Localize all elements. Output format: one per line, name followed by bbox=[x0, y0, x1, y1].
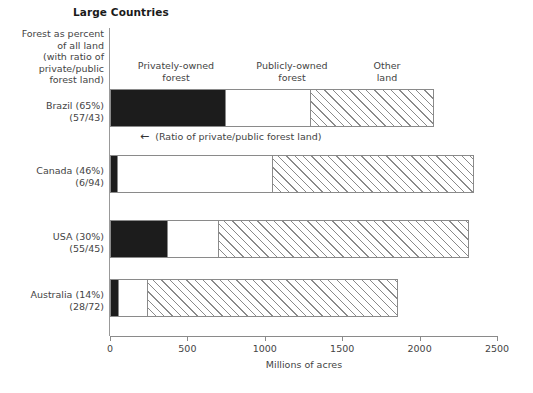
x-axis-tick bbox=[342, 336, 343, 341]
legend-label-public-line1: Publicly-owned bbox=[233, 60, 351, 72]
left-caption-line-5: forest land) bbox=[0, 74, 104, 86]
bar-segment-public bbox=[168, 221, 219, 257]
row-label-australia-name: Australia (14%) bbox=[0, 289, 104, 301]
legend-label-private-line2: forest bbox=[117, 72, 235, 84]
legend-label-private: Privately-owned forest bbox=[117, 60, 235, 83]
row-label-usa-ratio: (55/45) bbox=[0, 243, 104, 255]
row-label-brazil-name: Brazil (65%) bbox=[0, 100, 104, 112]
left-caption-line-2: of all land bbox=[0, 40, 104, 52]
bar-segment-public bbox=[119, 280, 148, 316]
x-axis-tick bbox=[110, 336, 111, 341]
bar-segment-private bbox=[111, 280, 119, 316]
x-axis-tick bbox=[265, 336, 266, 341]
x-axis-tick-label: 2500 bbox=[485, 343, 509, 354]
bar-row-usa[interactable] bbox=[110, 220, 469, 258]
legend-label-public-line2: forest bbox=[233, 72, 351, 84]
bar-segment-public bbox=[118, 156, 273, 192]
legend-label-private-line1: Privately-owned bbox=[117, 60, 235, 72]
row-label-australia: Australia (14%) (28/72) bbox=[0, 289, 104, 312]
x-axis-tick bbox=[497, 336, 498, 341]
ratio-annotation: ← (Ratio of private/public forest land) bbox=[140, 131, 322, 142]
bar-segment-public bbox=[226, 90, 311, 126]
row-label-brazil-ratio: (57/43) bbox=[0, 112, 104, 124]
legend-label-other: Other land bbox=[337, 60, 437, 83]
x-axis-tick-label: 1000 bbox=[253, 343, 277, 354]
x-axis-tick-label: 1500 bbox=[330, 343, 354, 354]
legend-label-other-line1: Other bbox=[337, 60, 437, 72]
bar-segment-other bbox=[311, 90, 433, 126]
row-label-usa: USA (30%) (55/45) bbox=[0, 231, 104, 254]
legend-label-public: Publicly-owned forest bbox=[233, 60, 351, 83]
arrow-left-icon: ← bbox=[140, 131, 148, 142]
left-caption-line-3: (with ratio of bbox=[0, 51, 104, 63]
ratio-annotation-text: (Ratio of private/public forest land) bbox=[155, 131, 321, 142]
bar-segment-other bbox=[148, 280, 397, 316]
left-caption-line-4: private/public bbox=[0, 63, 104, 75]
x-axis-tick-label: 2000 bbox=[408, 343, 432, 354]
chart-root: Large Countries Forest as percent of all… bbox=[0, 0, 533, 393]
bar-segment-other bbox=[273, 156, 473, 192]
bar-segment-private bbox=[111, 90, 226, 126]
legend-label-other-line2: land bbox=[337, 72, 437, 84]
left-caption-line-1: Forest as percent bbox=[0, 28, 104, 40]
x-axis-tick bbox=[187, 336, 188, 341]
page-title: Large Countries bbox=[73, 6, 169, 18]
x-axis-title: Millions of acres bbox=[110, 359, 498, 370]
bar-segment-private bbox=[111, 221, 168, 257]
row-label-usa-name: USA (30%) bbox=[0, 231, 104, 243]
row-label-brazil: Brazil (65%) (57/43) bbox=[0, 100, 104, 123]
left-caption: Forest as percent of all land (with rati… bbox=[0, 28, 104, 86]
bar-row-brazil[interactable] bbox=[110, 89, 434, 127]
row-label-australia-ratio: (28/72) bbox=[0, 301, 104, 313]
row-label-canada-name: Canada (46%) bbox=[0, 165, 104, 177]
x-axis-tick-label: 500 bbox=[178, 343, 196, 354]
bar-row-australia[interactable] bbox=[110, 279, 398, 317]
bar-row-canada[interactable] bbox=[110, 155, 474, 193]
x-axis-tick-label: 0 bbox=[107, 343, 113, 354]
row-label-canada-ratio: (6/94) bbox=[0, 177, 104, 189]
bar-segment-other bbox=[219, 221, 468, 257]
x-axis-line bbox=[110, 336, 498, 337]
bar-segment-private bbox=[111, 156, 118, 192]
x-axis-tick bbox=[420, 336, 421, 341]
row-label-canada: Canada (46%) (6/94) bbox=[0, 165, 104, 188]
